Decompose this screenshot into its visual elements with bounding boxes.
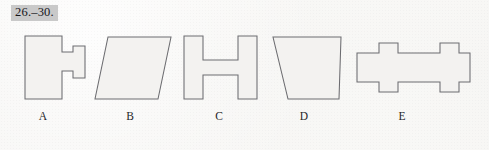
shape-c-caption: C [206,110,232,123]
shape-c-polygon [184,36,257,99]
shape-b-polygon [95,37,171,99]
shape-e-caption: E [389,110,415,123]
shape-d-polygon [273,37,341,99]
shape-b-caption: B [117,110,143,123]
shape-d-caption: D [291,110,317,123]
shape-e-polygon [357,43,470,92]
shape-a-caption: A [30,110,56,123]
shape-a-polygon [25,36,85,99]
exercise-number-label: 26.–30. [11,5,58,21]
figure-strip [0,26,489,108]
